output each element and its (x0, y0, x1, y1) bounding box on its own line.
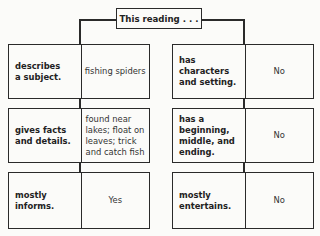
connector-left-horizontal (79, 19, 117, 21)
right-row-2-value: No (245, 109, 314, 162)
left-row-2: gives facts and details. found near lake… (8, 108, 150, 163)
right-row-2-label: has a beginning, middle, and ending. (173, 109, 245, 162)
right-row-3-value: No (245, 173, 314, 228)
left-row-2-value: found near lakes; float on leaves; trick… (81, 109, 150, 162)
connector-left-gap-2 (79, 162, 81, 172)
right-row-1-value: No (245, 45, 314, 98)
left-row-3-label: mostly informs. (9, 173, 81, 228)
connector-right-gap-2 (243, 162, 245, 172)
left-row-1-label: describes a subject. (9, 45, 81, 98)
left-row-2-label: gives facts and details. (9, 109, 81, 162)
connector-right-horizontal (202, 19, 244, 21)
diagram-title: This reading . . . (116, 8, 202, 29)
connector-right-gap-1 (243, 98, 245, 108)
connector-left-vertical (79, 19, 81, 45)
connector-left-gap-1 (79, 98, 81, 108)
right-row-3: mostly entertains. No (172, 172, 314, 229)
right-row-1-label: has characters and setting. (173, 45, 245, 98)
left-row-1-value: fishing spiders (81, 45, 150, 98)
left-row-1: describes a subject. fishing spiders (8, 44, 150, 99)
right-row-1: has characters and setting. No (172, 44, 314, 99)
left-row-3: mostly informs. Yes (8, 172, 150, 229)
connector-right-vertical (243, 19, 245, 45)
right-row-3-label: mostly entertains. (173, 173, 245, 228)
left-row-3-value: Yes (81, 173, 150, 228)
right-row-2: has a beginning, middle, and ending. No (172, 108, 314, 163)
